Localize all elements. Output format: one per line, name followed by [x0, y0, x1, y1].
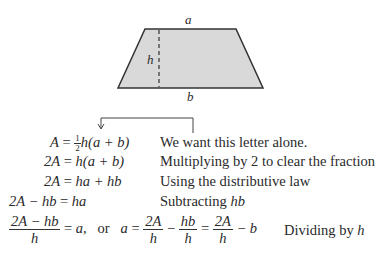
- fraction-numerator: hb: [179, 213, 198, 230]
- step-1-note: We want this letter alone.: [160, 133, 307, 151]
- fraction-2a-over-h: 2Ah: [143, 213, 163, 246]
- equals-sign: =: [56, 193, 71, 209]
- step-3-rhs: ha + hb: [76, 173, 122, 189]
- note-variable: hb: [230, 193, 245, 209]
- step-4-rhs: ha: [72, 193, 87, 209]
- label-bottom-b: b: [187, 89, 194, 105]
- or-text: or: [98, 220, 110, 236]
- equals-sign: =: [131, 220, 139, 236]
- step-2-rhs: h(a + b): [76, 153, 124, 169]
- step-5-equation: 2A − hbh = a, or a = 2Ah − hbh = 2Ah − b: [9, 213, 257, 246]
- step-3-lhs: 2A: [44, 173, 60, 189]
- step-4-note: Subtracting hb: [160, 192, 245, 210]
- minus-sign: −: [167, 220, 175, 236]
- step-5-note: Dividing by h: [284, 221, 365, 239]
- fraction-denominator: h: [143, 230, 163, 246]
- note-variable: h: [357, 222, 364, 238]
- label-top-a: a: [185, 12, 192, 28]
- step-1-lhs: A: [50, 134, 59, 150]
- step-1-equation: A = 12h(a + b): [50, 133, 129, 153]
- equals-sign: =: [60, 153, 75, 169]
- result-a: a,: [76, 220, 87, 236]
- equals-sign: =: [62, 134, 74, 150]
- equals-sign: =: [201, 220, 209, 236]
- step-4-lhs: 2A − hb: [9, 193, 56, 209]
- trapezoid-shape: [118, 29, 263, 88]
- note-text: Dividing by: [284, 222, 357, 238]
- label-height-h: h: [147, 52, 154, 68]
- step-2-note: Multiplying by 2 to clear the fraction: [160, 152, 375, 170]
- equals-sign: =: [64, 220, 72, 236]
- equals-sign: =: [60, 173, 75, 189]
- step-1-rhs: h(a + b): [81, 134, 129, 150]
- fraction-2a-over-h-2: 2Ah: [213, 213, 233, 246]
- fraction-denominator: h: [179, 230, 198, 246]
- minus-b: − b: [236, 220, 257, 236]
- step-2-equation: 2A = h(a + b): [44, 152, 124, 170]
- note-text: Subtracting: [160, 193, 230, 209]
- step-4-equation: 2A − hb = ha: [9, 192, 86, 210]
- fraction-2a-minus-hb-over-h: 2A − hbh: [9, 213, 60, 246]
- step-3-equation: 2A = ha + hb: [44, 172, 122, 190]
- fraction-numerator: 2A: [143, 213, 163, 230]
- step-2-lhs: 2A: [44, 153, 60, 169]
- variable-a: a: [121, 220, 128, 236]
- fraction-denominator: h: [9, 230, 60, 246]
- bracket-connector: [101, 118, 193, 133]
- fraction-hb-over-h: hbh: [179, 213, 198, 246]
- fraction-numerator: 2A: [213, 213, 233, 230]
- fraction-numerator: 2A − hb: [9, 213, 60, 230]
- fraction-denominator: h: [213, 230, 233, 246]
- step-3-note: Using the distributive law: [160, 172, 310, 190]
